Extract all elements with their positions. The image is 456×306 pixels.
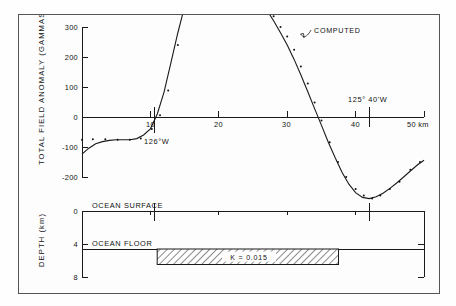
ocean-surface-label: OCEAN SURFACE (92, 201, 163, 210)
depth-ytick-8: 8 (74, 273, 78, 282)
anomaly-ytick-neg200: -200 (62, 173, 78, 182)
observed-curve (82, 15, 424, 199)
anomaly-ytick-300: 300 (65, 23, 78, 32)
anomaly-ytick-200: 200 (65, 53, 78, 62)
anomaly-xtick-50: 50 km (407, 120, 429, 129)
computed-points (81, 15, 421, 200)
anomaly-ytick-0: 0 (74, 113, 78, 122)
anomaly-xtick-20: 20 (214, 120, 223, 129)
anomaly-xtick-30: 30 (282, 120, 291, 129)
surface-minor-ticks (150, 211, 355, 215)
anomaly-y-axis-label: TOTAL FIELD ANOMALY (GAMMAS) (37, 15, 46, 165)
depth-ytick-0: 0 (74, 207, 78, 216)
figure-frame: 300 200 100 0 -100 -200 TOTAL FIELD ANOM… (18, 14, 440, 294)
depth-y-ticks (82, 211, 88, 277)
locator-label-125-40w: 125° 40'W (348, 95, 387, 104)
anomaly-y-ticks (82, 27, 88, 177)
anomaly-ytick-100: 100 (65, 83, 78, 92)
computed-arrow-head (301, 34, 305, 38)
bathymetry-panel: 0 4 8 DEPTH (km) OCEAN SURFACE (37, 201, 424, 282)
anomaly-ytick-neg100: -100 (62, 143, 78, 152)
magnetic-body-label: K = 0.015 (230, 254, 267, 261)
anomaly-xtick-40: 40 (351, 120, 360, 129)
locator-label-126w: 126°W (144, 137, 169, 146)
figure-canvas: 300 200 100 0 -100 -200 TOTAL FIELD ANOM… (19, 15, 437, 291)
depth-ytick-4: 4 (74, 240, 78, 249)
anomaly-panel: 300 200 100 0 -100 -200 TOTAL FIELD ANOM… (37, 15, 429, 200)
computed-annotation-label: COMPUTED (314, 26, 361, 35)
figure-container: 300 200 100 0 -100 -200 TOTAL FIELD ANOM… (0, 0, 456, 306)
ocean-floor-label: OCEAN FLOOR (92, 239, 152, 248)
depth-y-axis-label: DEPTH (km) (37, 213, 46, 267)
anomaly-x-ticks (150, 111, 424, 117)
